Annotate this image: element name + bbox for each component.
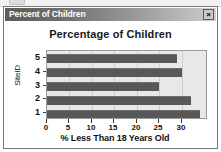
chart-window: Percent of Children × Percentage of Chil… (3, 6, 218, 149)
y-tick-label: 3 (26, 81, 40, 90)
bar (47, 96, 191, 105)
bar (47, 68, 182, 77)
chart-client-area: Percentage of Children SiteID 54321 0510… (5, 21, 216, 147)
x-tick-label: 30 (173, 123, 189, 132)
window-titlebar[interactable]: Percent of Children × (5, 8, 216, 21)
chart-title: Percentage of Children (5, 28, 216, 40)
x-tick-label: 0 (38, 123, 54, 132)
bar (47, 82, 159, 91)
close-button[interactable]: × (203, 9, 214, 20)
window-title: Percent of Children (9, 9, 86, 20)
x-tick-label: 15 (105, 123, 121, 132)
x-tick-label: 25 (150, 123, 166, 132)
bar (47, 110, 200, 119)
x-tick-label: 10 (83, 123, 99, 132)
x-tick-label: 20 (128, 123, 144, 132)
y-tick-label: 4 (26, 67, 40, 76)
bar (47, 54, 177, 63)
y-tick-label: 2 (26, 94, 40, 103)
plot-area (46, 50, 207, 119)
x-axis-title: % Less Than 18 Years Old (25, 133, 205, 143)
close-icon: × (204, 10, 213, 19)
y-axis-title: SiteID (13, 56, 22, 96)
window-tab-stub (9, 0, 25, 5)
y-tick-label: 5 (26, 53, 40, 62)
y-tick-label: 1 (26, 108, 40, 117)
gridline (182, 51, 183, 118)
x-tick-label: 5 (60, 123, 76, 132)
